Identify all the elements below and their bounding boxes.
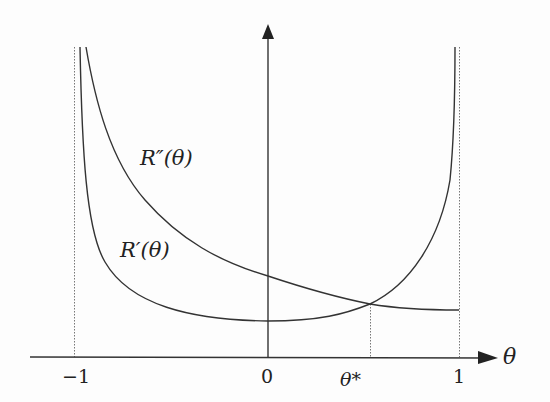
x-axis (30, 357, 492, 358)
tick-label-theta-star: θ* (340, 370, 361, 389)
tick-label-minus-one: −1 (62, 367, 90, 386)
label-r-prime: R′(θ) (120, 240, 170, 261)
label-theta-axis: θ (503, 346, 516, 368)
x-axis-arrow-icon (478, 351, 498, 364)
figure: R″(θ) R′(θ) θ −1 0 θ* 1 (0, 0, 550, 402)
plot-canvas (0, 0, 550, 402)
y-axis-arrow-icon (262, 24, 274, 39)
curve-r-double-prime (86, 47, 459, 310)
tick-label-zero: 0 (261, 367, 273, 386)
tick-label-one: 1 (453, 367, 465, 386)
label-r-double-prime: R″(θ) (140, 148, 193, 169)
